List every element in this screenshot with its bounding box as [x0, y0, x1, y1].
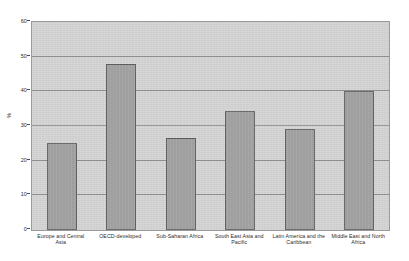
- bar: [285, 129, 315, 230]
- x-tick-label: Sub-Saharan Africa: [151, 233, 209, 239]
- bar-chart-figure: % 0102030405060 Europe and Central AsiaO…: [0, 0, 409, 261]
- y-tick-mark-40: [27, 89, 30, 90]
- y-axis-tick-marks: [0, 21, 31, 229]
- x-tick-label: OECD-developed: [92, 233, 150, 239]
- bar: [344, 91, 374, 230]
- y-tick-mark-0: [27, 228, 30, 229]
- bar: [47, 143, 77, 230]
- y-tick-mark-30: [27, 124, 30, 125]
- bar: [106, 64, 136, 230]
- x-tick-label: Middle East and North Africa: [330, 233, 388, 246]
- x-tick-label: Europe and Central Asia: [32, 233, 90, 246]
- y-tick-mark-20: [27, 159, 30, 160]
- bars-group: [32, 22, 389, 230]
- y-tick-mark-10: [27, 193, 30, 194]
- x-tick-label: Latin America and the Caribbean: [270, 233, 328, 246]
- scan-artifact-strip: [14, 0, 104, 7]
- x-axis-category-labels: Europe and Central AsiaOECD-developedSub…: [31, 233, 388, 259]
- bar: [225, 111, 255, 230]
- y-tick-mark-50: [27, 55, 30, 56]
- plot-area: [31, 21, 390, 231]
- x-tick-label: South East Asia and Pacific: [211, 233, 269, 246]
- bar: [166, 138, 196, 230]
- y-tick-mark-60: [27, 20, 30, 21]
